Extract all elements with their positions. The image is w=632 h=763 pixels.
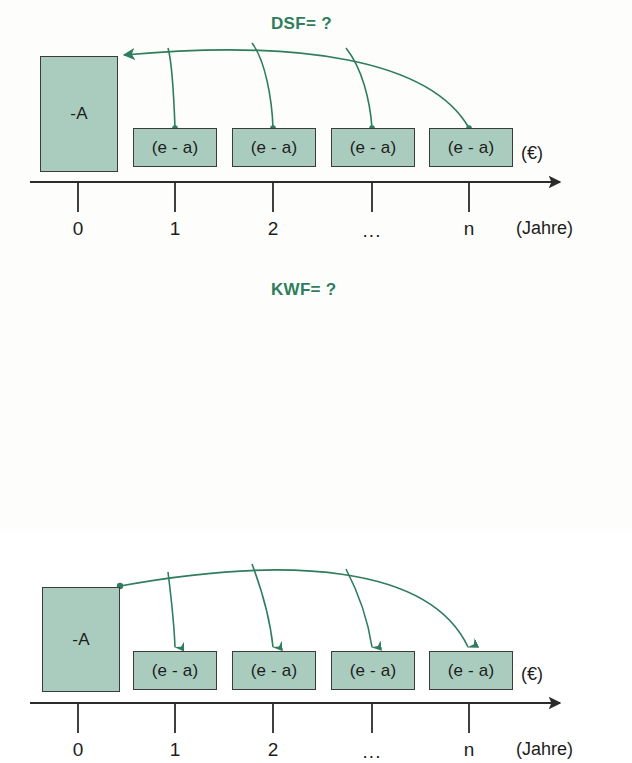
- dsf-branch-2: [252, 43, 273, 128]
- dsf-flow-box-2-label: (e - a): [251, 138, 298, 158]
- kwf-flow-box-1-label: (e - a): [152, 661, 199, 681]
- kwf-investment-box: -A: [42, 587, 120, 692]
- dsf-tick-label-3: ...: [363, 220, 382, 242]
- dsf-tick-label-4: n: [464, 218, 475, 240]
- kwf-arrow-layer: [0, 266, 632, 532]
- dsf-main-arc: [124, 50, 469, 128]
- dsf-flow-box-2: (e - a): [232, 128, 316, 167]
- kwf-flow-box-2: (e - a): [232, 651, 316, 690]
- dsf-investment-box: -A: [40, 56, 118, 172]
- dsf-flow-box-3-label: (e - a): [350, 138, 397, 158]
- dsf-time-unit: (Jahre): [516, 218, 573, 239]
- kwf-value-unit: (€): [521, 664, 543, 685]
- dsf-branch-1: [168, 48, 175, 128]
- dsf-flow-box-1: (e - a): [133, 128, 217, 167]
- dsf-flow-box-4-label: (e - a): [448, 138, 495, 158]
- dsf-tick-label-0: 0: [73, 218, 84, 240]
- dsf-flow-box-3: (e - a): [331, 128, 415, 167]
- kwf-tick-label-0: 0: [73, 739, 84, 761]
- kwf-branch-1: [168, 572, 175, 647]
- dsf-value-unit: (€): [521, 143, 543, 164]
- diagram-dsf: DSF= ? -A (e - a): [0, 0, 632, 265]
- kwf-tick-label-4: n: [464, 739, 475, 761]
- kwf-flow-box-4-label: (e - a): [448, 661, 495, 681]
- kwf-flow-box-2-label: (e - a): [251, 661, 298, 681]
- dsf-investment-box-label: -A: [70, 104, 87, 124]
- kwf-flow-box-1: (e - a): [133, 651, 217, 690]
- dsf-tick-label-2: 2: [268, 218, 279, 240]
- dsf-flow-box-4: (e - a): [429, 128, 513, 167]
- kwf-time-unit: (Jahre): [516, 739, 573, 760]
- diagram-kwf: KWF= ? -A (e - a) (e - a): [0, 266, 632, 531]
- kwf-investment-box-label: -A: [72, 630, 89, 650]
- dsf-tick-label-1: 1: [170, 218, 181, 240]
- kwf-tick-label-1: 1: [170, 739, 181, 761]
- dsf-flow-box-1-label: (e - a): [152, 138, 199, 158]
- kwf-tick-label-3: ...: [363, 741, 382, 763]
- kwf-flow-box-4: (e - a): [429, 651, 513, 690]
- kwf-flow-box-3-label: (e - a): [350, 661, 397, 681]
- kwf-branch-3: [346, 569, 372, 647]
- kwf-tick-label-2: 2: [268, 739, 279, 761]
- kwf-branch-2: [252, 564, 273, 647]
- kwf-flow-box-3: (e - a): [331, 651, 415, 690]
